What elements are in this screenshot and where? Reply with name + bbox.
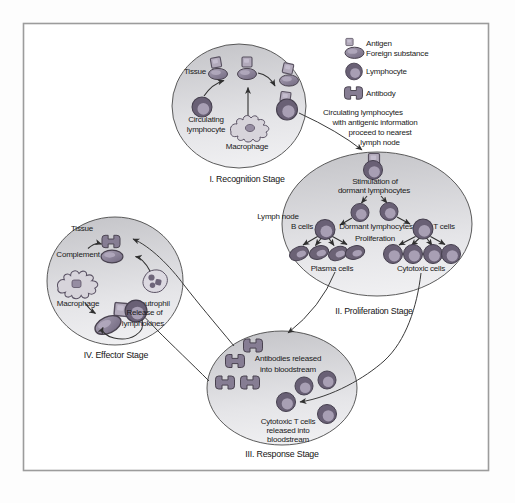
dormant-lymphocyte-icon bbox=[380, 202, 398, 220]
lymphocyte-with-antigen-icon bbox=[277, 99, 298, 120]
legend-lymphocyte-label: Lymphocyte bbox=[366, 67, 408, 76]
legend-antigen-label: Antigen bbox=[366, 39, 392, 48]
cytotoxic-released-label-1: Cytotoxic T cells bbox=[261, 417, 316, 426]
proliferation-label: Proliferation bbox=[355, 234, 395, 243]
annotation-line-4: lymph node bbox=[360, 138, 400, 147]
foreign-substance-icon bbox=[101, 250, 123, 263]
effector-caption: IV. Effector Stage bbox=[84, 350, 149, 360]
t-cell-icon bbox=[413, 219, 433, 239]
cytotoxic-cell-icon bbox=[424, 245, 443, 264]
cytotoxic-cell-icon bbox=[404, 245, 423, 264]
antigen-icon bbox=[346, 38, 353, 45]
antigen-icon bbox=[210, 57, 222, 69]
antigen-icon bbox=[242, 57, 252, 67]
recognition-macrophage-label: Macrophage bbox=[226, 142, 269, 151]
cytotoxic-t-cell-icon bbox=[295, 377, 313, 395]
cytotoxic-cells-label: Cytotoxic cells bbox=[397, 264, 445, 273]
legend-foreign-substance-label: Foreign substance bbox=[366, 49, 429, 58]
cytotoxic-t-cell-icon bbox=[318, 371, 336, 389]
stimulation-label-2: dormant lymphocytes bbox=[338, 186, 410, 195]
b-cell-icon bbox=[315, 220, 335, 240]
response-caption: III. Response Stage bbox=[245, 449, 319, 459]
dormant-lymphocytes-label: Dormant lymphocytes bbox=[339, 222, 413, 231]
lymphocyte-icon bbox=[346, 63, 363, 80]
dormant-lymphocyte-icon bbox=[351, 203, 369, 221]
cytotoxic-cell-icon bbox=[384, 245, 403, 264]
circulating-lymphocyte-icon bbox=[192, 97, 212, 117]
circulating-lymphocyte-label-2: lymphocyte bbox=[187, 125, 226, 134]
macrophage-nucleus bbox=[245, 124, 254, 131]
effector-macrophage-label: Macrophage bbox=[57, 299, 100, 308]
recognition-tissue-label: Tissue bbox=[184, 67, 207, 76]
foreign-substance-icon bbox=[345, 47, 364, 58]
release-lymphokines-label-1: Release of bbox=[126, 308, 163, 317]
proliferation-caption: II. Proliferation Stage bbox=[335, 306, 413, 316]
immune-response-diagram: Antigen Foreign substance Lymphocyte Ant… bbox=[0, 0, 515, 503]
lymph-node-label: Lymph node bbox=[257, 212, 299, 221]
effector-tissue-label: Tissue bbox=[71, 224, 94, 233]
cytotoxic-t-cell-icon bbox=[318, 405, 337, 424]
plasma-cells-label: Plasma cells bbox=[311, 264, 354, 273]
recognition-caption: I. Recognition Stage bbox=[209, 174, 285, 184]
circulating-lymphocyte-label-1: Circulating bbox=[188, 115, 224, 124]
cytotoxic-cell-icon bbox=[442, 245, 461, 264]
annotation-line-2: with antigenic information bbox=[331, 118, 417, 127]
annotation-line-3: proceed to nearest bbox=[348, 128, 412, 137]
immune-response-figure: Antigen Foreign substance Lymphocyte Ant… bbox=[0, 0, 515, 503]
cytotoxic-t-cell-icon bbox=[277, 393, 296, 412]
foreign-substance-icon bbox=[280, 75, 299, 86]
cytotoxic-released-label-2: released into bbox=[266, 426, 310, 435]
neutrophil-icon bbox=[143, 270, 167, 293]
legend-antibody-label: Antibody bbox=[366, 89, 396, 98]
foreign-substance-icon bbox=[238, 68, 257, 79]
antibodies-released-label-2: into bloodstream bbox=[260, 365, 316, 374]
antigen-icon bbox=[282, 63, 294, 75]
release-lymphokines-label-2: lymphokines bbox=[122, 319, 164, 328]
b-cells-label: B cells bbox=[291, 222, 313, 231]
complement-label: Complement bbox=[56, 250, 100, 259]
cytotoxic-released-label-3: bloodstream bbox=[267, 435, 309, 444]
foreign-substance-icon bbox=[209, 68, 228, 79]
annotation-line-1: Circulating lymphocytes bbox=[323, 108, 403, 117]
t-cells-label: T cells bbox=[433, 222, 455, 231]
macrophage-nucleus bbox=[72, 280, 81, 288]
antibodies-released-label-1: Antibodies released bbox=[255, 354, 321, 363]
